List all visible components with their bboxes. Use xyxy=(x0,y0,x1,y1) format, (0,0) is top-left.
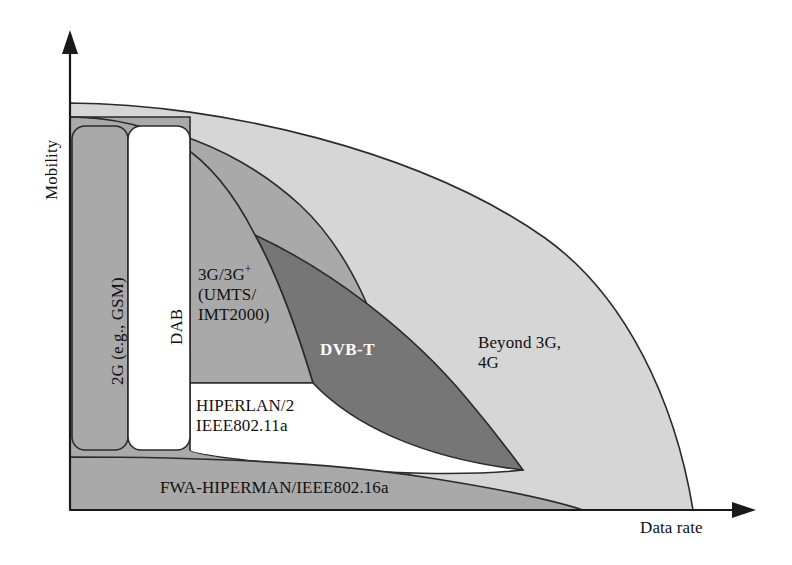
region-label-3g-line1: 3G/3G+ xyxy=(198,265,270,285)
region-label-3g-text: 3G/3G xyxy=(198,265,245,284)
region-label-beyond-3g: Beyond 3G, 4G xyxy=(478,333,561,373)
y-axis-label: Mobility xyxy=(42,140,62,200)
region-label-3g-line3: IMT2000) xyxy=(198,305,270,325)
region-label-beyond-3g-line1: Beyond 3G, xyxy=(478,333,561,353)
x-axis-label: Data rate xyxy=(640,518,703,538)
region-label-dvbt: DVB-T xyxy=(320,340,375,360)
x-axis-arrowhead xyxy=(732,502,756,518)
technology-coverage-diagram: Mobility Data rate 2G (e.g., GSM) DAB 3G… xyxy=(0,0,792,565)
region-label-3g: 3G/3G+ (UMTS/ IMT2000) xyxy=(198,265,270,325)
region-label-3g-superscript: + xyxy=(245,263,252,276)
region-label-hiperlan-line1: HIPERLAN/2 xyxy=(196,396,294,416)
region-label-2g: 2G (e.g., GSM) xyxy=(108,277,128,385)
region-label-hiperlan: HIPERLAN/2 IEEE802.11a xyxy=(196,396,294,436)
region-dab-shape xyxy=(128,126,190,450)
region-label-fwa: FWA-HIPERMAN/IEEE802.16a xyxy=(160,478,389,498)
region-label-dab: DAB xyxy=(167,309,187,345)
region-label-3g-line2: (UMTS/ xyxy=(198,285,270,305)
region-label-hiperlan-line2: IEEE802.11a xyxy=(196,416,294,436)
region-label-beyond-3g-line2: 4G xyxy=(478,353,561,373)
y-axis-arrowhead xyxy=(62,30,78,54)
